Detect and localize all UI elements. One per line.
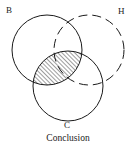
set-label-h: H (118, 7, 125, 16)
figure-caption: Conclusion (0, 134, 136, 144)
set-label-b: B (6, 6, 12, 15)
set-label-c: C (64, 121, 70, 130)
venn-diagram-figure: B H C Conclusion (0, 0, 136, 150)
